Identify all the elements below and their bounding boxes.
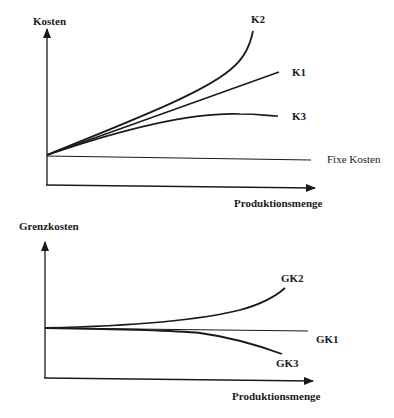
curve-k3 (47, 114, 278, 155)
top-x-axis-label: Produktionsmenge (234, 197, 322, 209)
bottom-x-axis (44, 378, 313, 381)
curve-gk3 (45, 328, 282, 354)
label-gk1: GK1 (316, 333, 339, 345)
top-chart (46, 29, 315, 188)
label-fixed-costs: Fixe Kosten (327, 153, 380, 165)
label-k3: K3 (292, 110, 306, 122)
label-gk3: GK3 (276, 357, 299, 369)
top-y-axis-label: Kosten (33, 15, 66, 27)
bottom-y-axis-label: Grenzkosten (19, 220, 79, 232)
label-k2: K2 (251, 13, 265, 25)
label-gk2: GK2 (281, 272, 304, 284)
top-x-axis (46, 185, 315, 188)
diagram-canvas (0, 0, 394, 418)
fixed-cost-line (47, 156, 311, 160)
label-k1: K1 (292, 66, 306, 78)
bottom-x-axis-label: Produktionsmenge (232, 390, 320, 402)
curve-gk2 (45, 288, 285, 328)
bottom-chart (44, 242, 313, 381)
